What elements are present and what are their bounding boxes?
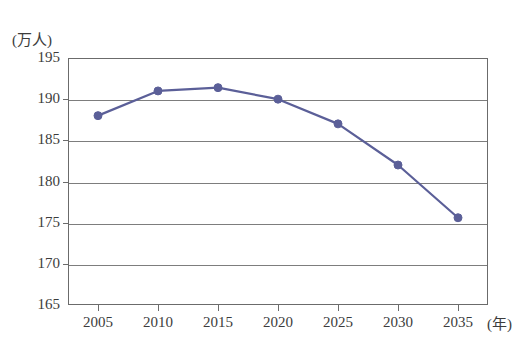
y-tick-mark-190 <box>63 99 68 100</box>
data-point-marker <box>334 120 342 128</box>
y-tick-label: 180 <box>0 174 60 189</box>
population-line-chart: (万人) (年) 1951901851801751701652005201020… <box>0 0 531 356</box>
x-tick-mark-2010 <box>158 305 159 311</box>
y-tick-label: 195 <box>0 50 60 65</box>
x-tick-mark-2020 <box>278 305 279 311</box>
x-tick-mark-2005 <box>98 305 99 311</box>
data-point-marker <box>154 87 162 95</box>
y-tick-label: 175 <box>0 215 60 230</box>
x-tick-mark-2030 <box>398 305 399 311</box>
y-tick-mark-180 <box>63 182 68 183</box>
x-tick-mark-2035 <box>458 305 459 311</box>
x-tick-mark-2015 <box>218 305 219 311</box>
y-tick-label: 170 <box>0 256 60 271</box>
data-point-marker <box>214 84 222 92</box>
series-line <box>98 88 458 218</box>
y-tick-mark-170 <box>63 264 68 265</box>
y-tick-mark-185 <box>63 140 68 141</box>
y-tick-label: 185 <box>0 132 60 147</box>
data-point-marker <box>454 214 462 222</box>
x-tick-mark-2025 <box>338 305 339 311</box>
y-tick-mark-175 <box>63 223 68 224</box>
data-point-marker <box>394 161 402 169</box>
series-svg <box>68 58 488 305</box>
x-tick-label: 2035 <box>423 315 493 330</box>
data-point-marker <box>274 95 282 103</box>
y-tick-label: 165 <box>0 297 60 312</box>
y-tick-label: 190 <box>0 91 60 106</box>
y-axis-unit-label: (万人) <box>12 28 52 49</box>
data-point-marker <box>94 112 102 120</box>
